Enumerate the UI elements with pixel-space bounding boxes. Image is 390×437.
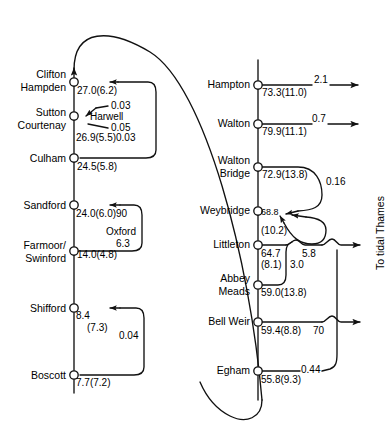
value-boscott: 7.7(7.2) <box>76 377 110 389</box>
value-weybridge: 68.8 <box>261 207 279 219</box>
annotation-egham-044: 0.44 <box>301 364 320 376</box>
annotation-harwell-inflow: 0.03 <box>111 100 130 112</box>
station-label-farmoor-swinford: Farmoor/ Swinford <box>0 239 66 264</box>
annotation-littleton-3: 3.0 <box>290 259 304 271</box>
value-egham: 55.8(9.3) <box>261 374 301 386</box>
station-label-clifton-hampden: Clifton Hampden <box>0 68 66 93</box>
annotation-walton-bridge-loop: 0.16 <box>326 176 345 188</box>
station-label-walton: Walton <box>186 117 250 130</box>
node-sutton-courtenay <box>70 112 78 120</box>
annotation-littleton-58: 5.8 <box>302 248 316 260</box>
station-label-sandford: Sandford <box>0 199 66 212</box>
station-label-weybridge: Weybridge <box>182 204 250 217</box>
station-label-walton-bridge: Walton Bridge <box>186 154 250 179</box>
station-label-egham: Egham <box>186 364 250 377</box>
outflow-label-to-tidal-thames: To tidal Thames <box>374 196 386 270</box>
bell-weir-outflow <box>258 316 360 322</box>
value-sutton-courtenay: 26.9(5.5)0.03 <box>76 132 136 144</box>
station-label-littleton: Littleton <box>186 238 250 251</box>
annotation-boscott-loop: 0.04 <box>119 330 138 342</box>
node-walton <box>254 120 262 128</box>
value-abbey-meads: 59.0(13.8) <box>261 287 307 299</box>
station-label-abbey-meads: Abbey Meads <box>186 272 250 297</box>
station-label-sutton-courtenay: Sutton Courtenay <box>0 106 66 131</box>
value-walton: 79.9(11.1) <box>262 126 307 138</box>
river-flow-diagram: Clifton Hampden Sutton Courtenay Culham … <box>0 0 390 437</box>
value-farmoor-swinford: 14.0(4.8) <box>77 249 117 261</box>
annotation-shifford-paren: (7.3) <box>87 322 108 334</box>
annotation-walton-outflow: 0.7 <box>312 113 326 125</box>
annotation-littleton-paren: (8.1) <box>261 259 282 271</box>
station-label-boscott: Boscott <box>0 369 66 382</box>
value-walton-bridge: 72.9(13.8) <box>262 169 308 181</box>
node-hampton <box>254 81 262 89</box>
value-culham: 24.5(5.8) <box>77 161 117 173</box>
station-label-shifford: Shifford <box>0 302 66 315</box>
annotation-bell-weir-70: 70 <box>313 325 324 337</box>
annotation-hampton-outflow: 2.1 <box>314 74 328 86</box>
annotation-harwell: Harwell <box>90 111 123 123</box>
annotation-weybridge-paren: (10.2) <box>261 225 287 237</box>
value-littleton: 64.7 <box>261 248 280 260</box>
value-shifford: 8.4 <box>76 310 90 322</box>
value-hampton: 73.3(11.0) <box>262 87 307 99</box>
station-label-culham: Culham <box>0 152 66 165</box>
annotation-oxford-flow: 6.3 <box>116 238 130 250</box>
node-walton-bridge <box>254 163 262 171</box>
value-clifton-hampden: 27.0(6.2) <box>77 85 117 97</box>
value-sandford: 24.0(6.0)90 <box>76 208 127 220</box>
value-bell-weir: 59.4(8.8) <box>261 325 301 337</box>
annotation-oxford: Oxford <box>106 226 136 238</box>
station-label-bell-weir: Bell Weir <box>186 315 250 328</box>
station-label-hampton: Hampton <box>186 78 250 91</box>
annotation-harwell-outflow: 0.05 <box>111 122 130 134</box>
